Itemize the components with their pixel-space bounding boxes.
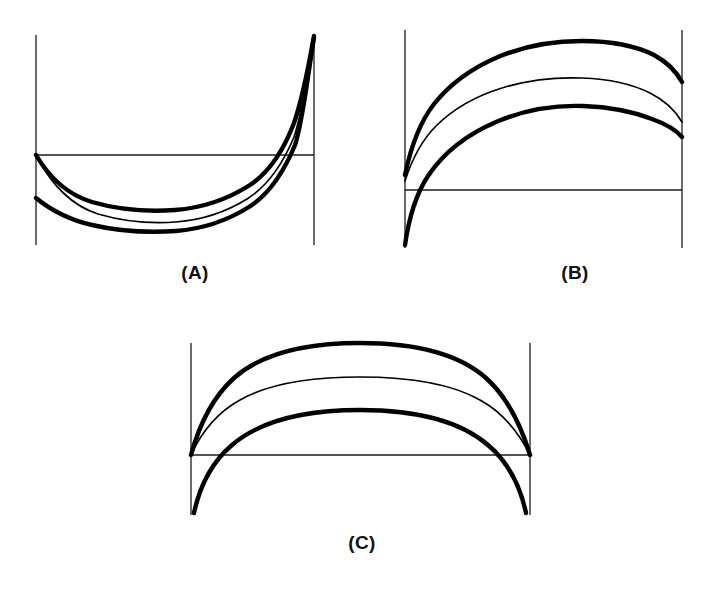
panel-b-plot (354, 0, 708, 260)
panel-c-label: (C) (307, 532, 417, 554)
panel-c-plot (160, 310, 560, 540)
panel-b (354, 0, 708, 260)
panel-c-curve-lower-bold (194, 410, 526, 513)
panel-b-label: (B) (520, 262, 630, 284)
figure-canvas: (A) (B) (C) (0, 0, 708, 590)
panel-c-curve-middle-thin (191, 377, 530, 455)
panel-a (0, 0, 354, 260)
panel-b-curve-lower-bold (405, 106, 682, 245)
panel-a-curve-lower-bold (36, 38, 314, 232)
panel-a-plot (0, 0, 354, 260)
panel-c (160, 310, 560, 540)
panel-a-label: (A) (140, 262, 250, 284)
